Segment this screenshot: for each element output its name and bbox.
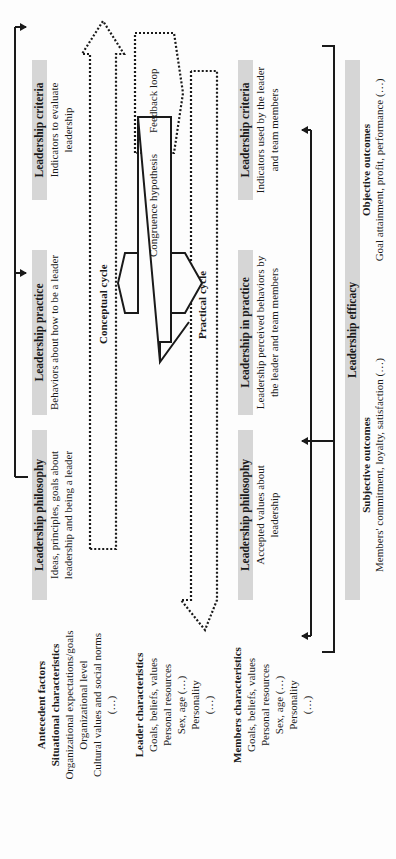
leader-item: (…)	[202, 590, 216, 820]
conceptual-cycle-label: Conceptual cycle	[97, 264, 109, 344]
practical-cycle-arrow	[181, 71, 217, 630]
congruence-hypothesis-shape	[118, 117, 202, 362]
situational-item: Organizational expectations/goals	[62, 590, 76, 820]
practical-philosophy-desc: Accepted values about leadership	[253, 450, 281, 580]
subjective-outcomes-desc: Members' commitment, loyalty, satisfacti…	[373, 330, 386, 600]
objective-outcomes-desc: Goal attainment, profit, performance (…)	[373, 50, 386, 290]
feedback-loop-label: Feedback loop	[147, 69, 159, 133]
leader-item: Goals, beliefs, values	[146, 590, 160, 820]
top-bracket-arrows	[15, 27, 28, 477]
practical-criteria-header: Leadership criteria	[238, 60, 253, 200]
subjective-outcomes-title: Subjective outcomes	[360, 330, 373, 600]
members-item: Personality	[286, 590, 300, 820]
situational-item: Cultural values and social norms	[90, 590, 104, 820]
situational-title: Situational characteristics	[48, 590, 62, 820]
practical-in-practice-desc: Leadership perceived behaviors by the le…	[253, 250, 281, 415]
conceptual-philosophy-desc: Ideas, principles, goals about leadershi…	[47, 430, 75, 600]
leader-item: Personality	[188, 590, 202, 820]
members-item: (…)	[300, 590, 314, 820]
leadership-model-diagram: Antecedent factors Situational character…	[0, 0, 396, 859]
conceptual-criteria-header: Leadership criteria	[32, 60, 47, 200]
conceptual-practice-header: Leadership practice	[32, 250, 47, 415]
antecedent-title: Antecedent factors	[34, 590, 48, 820]
practical-philosophy-header: Leadership philosophy	[238, 430, 253, 600]
practical-in-practice-header: Leadership in practice	[238, 250, 253, 415]
leader-item: Personal resources	[160, 590, 174, 820]
efficacy-bracket	[322, 46, 334, 652]
objective-outcomes: Objective outcomes Goal attainment, prof…	[360, 50, 386, 290]
practical-cycle-label: Practical cycle	[196, 271, 208, 339]
members-characteristics-title: Members characteristics	[230, 590, 244, 820]
subjective-outcomes: Subjective outcomes Members' commitment,…	[360, 330, 386, 600]
practical-criteria-desc: Indicators used by the leader and team m…	[253, 65, 281, 195]
leadership-efficacy-header: Leadership efficacy	[345, 60, 360, 600]
leader-item: Sex, age (…)	[174, 590, 188, 820]
members-item: Sex, age (…)	[272, 590, 286, 820]
practical-bracket-arrows	[302, 130, 334, 636]
conceptual-practice-desc: Behaviors about how to be a leader	[47, 250, 61, 415]
situational-item: Organizational level	[76, 590, 90, 820]
antecedent-factors: Antecedent factors Situational character…	[34, 590, 314, 820]
situational-item: (…)	[104, 590, 118, 820]
members-item: Personal resources	[258, 590, 272, 820]
conceptual-philosophy-header: Leadership philosophy	[32, 430, 47, 600]
leader-characteristics-title: Leader characteristics	[132, 590, 146, 820]
objective-outcomes-title: Objective outcomes	[360, 50, 373, 290]
congruence-hypothesis-label: Congruence hypothesis	[147, 154, 159, 257]
members-item: Goals, beliefs, values	[244, 590, 258, 820]
conceptual-criteria-desc: Indicators to evaluate leadership	[47, 70, 75, 190]
